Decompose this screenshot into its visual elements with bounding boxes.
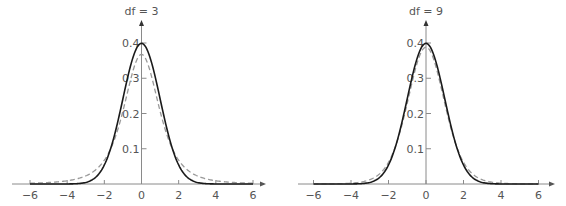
x-tick-label: 4 bbox=[212, 189, 219, 202]
y-tick-label: 0.3 bbox=[122, 72, 140, 85]
y-axis-arrow-icon bbox=[139, 20, 144, 26]
x-tick-label: −4 bbox=[59, 189, 75, 202]
chart-panel-df9: df = 9−6−4−202460.10.20.30.4 bbox=[298, 5, 555, 202]
x-tick-label: −6 bbox=[305, 189, 321, 202]
chart-panel-df3: df = 3−6−4−202460.10.20.30.4 bbox=[12, 5, 266, 202]
y-axis-arrow-icon bbox=[424, 20, 429, 26]
x-axis-arrow-icon bbox=[260, 182, 266, 187]
x-tick-label: 4 bbox=[498, 189, 505, 202]
x-tick-label: −2 bbox=[380, 189, 396, 202]
chart-title: df = 9 bbox=[409, 5, 443, 18]
x-tick-label: −2 bbox=[96, 189, 112, 202]
x-tick-label: 2 bbox=[175, 189, 182, 202]
y-tick-label: 0.1 bbox=[122, 143, 140, 156]
x-tick-label: 6 bbox=[535, 189, 542, 202]
x-tick-label: −6 bbox=[22, 189, 38, 202]
y-tick-label: 0.2 bbox=[407, 108, 425, 121]
x-tick-label: −4 bbox=[343, 189, 359, 202]
y-tick-label: 0.3 bbox=[407, 72, 425, 85]
y-tick-label: 0.2 bbox=[122, 108, 140, 121]
x-tick-label: 0 bbox=[423, 189, 430, 202]
x-tick-label: 0 bbox=[138, 189, 145, 202]
y-tick-label: 0.1 bbox=[407, 143, 425, 156]
chart-title: df = 3 bbox=[124, 5, 158, 18]
x-tick-label: 6 bbox=[250, 189, 257, 202]
x-axis-arrow-icon bbox=[549, 182, 555, 187]
chart-canvas: df = 3−6−4−202460.10.20.30.4 df = 9−6−4−… bbox=[0, 0, 566, 206]
x-tick-label: 2 bbox=[460, 189, 467, 202]
